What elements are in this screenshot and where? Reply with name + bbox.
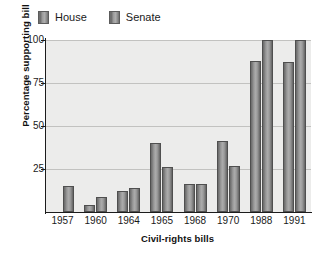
bar-senate-1964 (129, 188, 140, 212)
bar-senate-1988 (262, 40, 273, 212)
bar-group (150, 40, 173, 212)
bar-senate-1960 (96, 197, 107, 212)
bar-house-1964 (117, 191, 128, 212)
bar-group (51, 40, 74, 212)
bars-layer (46, 40, 311, 212)
x-axis-tick-labels: 19571960196419651968197019881991 (46, 215, 311, 231)
bar-chart: House Senate Percentage supporting bill … (0, 0, 325, 253)
y-axis-tick-label: 100 (4, 34, 44, 45)
bar-senate-1970 (229, 166, 240, 212)
legend-label-house: House (55, 11, 87, 23)
legend-item-house: House (38, 11, 87, 24)
legend-swatch-house (38, 11, 49, 24)
bar-group (217, 40, 240, 212)
bar-house-1988 (250, 61, 261, 212)
y-axis-tick-mark (41, 126, 45, 127)
y-axis-tick-mark (41, 169, 45, 170)
legend-swatch-senate (109, 11, 120, 24)
y-axis-tick-label: 25 (4, 163, 44, 174)
bar-group (117, 40, 140, 212)
legend-label-senate: Senate (126, 11, 161, 23)
bar-house-1991 (283, 62, 294, 212)
bar-group (184, 40, 207, 212)
bar-house-1968 (184, 184, 195, 212)
bar-house-1960 (84, 205, 95, 212)
x-axis-line (45, 212, 312, 213)
bar-house-1965 (150, 143, 161, 212)
y-axis-tick-label: 50 (4, 120, 44, 131)
bar-senate-1968 (196, 184, 207, 212)
chart-legend: House Senate (38, 9, 161, 25)
x-axis-title: Civil-rights bills (45, 233, 310, 244)
bar-senate-1957 (63, 186, 74, 212)
bar-group (250, 40, 273, 212)
y-axis-tick-label: 75 (4, 77, 44, 88)
bar-senate-1991 (295, 40, 306, 212)
bar-house-1970 (217, 141, 228, 212)
bar-group (283, 40, 306, 212)
y-axis-tick-mark (41, 83, 45, 84)
bar-group (84, 40, 107, 212)
x-axis-tick-label-1991: 1991 (274, 215, 314, 226)
legend-item-senate: Senate (109, 11, 161, 24)
bar-senate-1965 (162, 167, 173, 212)
y-axis-tick-mark (41, 40, 45, 41)
